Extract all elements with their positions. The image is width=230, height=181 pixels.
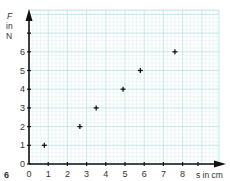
- figure-number: 6: [4, 170, 9, 180]
- x-tick-label: 2: [65, 169, 70, 179]
- y-axis-label: F in N: [6, 11, 13, 41]
- x-tick-label: 0: [26, 169, 31, 179]
- x-tick-label: 7: [161, 169, 166, 179]
- x-axis-arrow-icon: [214, 161, 226, 168]
- y-tick-label: 0: [20, 159, 25, 169]
- grid: [29, 10, 219, 164]
- y-axis-label-line: F: [7, 11, 13, 21]
- y-tick-label: 5: [20, 66, 25, 76]
- data-point-marker: [172, 49, 177, 54]
- y-tick-label: 4: [20, 84, 25, 94]
- y-tick-label: 6: [20, 47, 25, 57]
- data-point-marker: [77, 124, 82, 129]
- x-tick-label: 6: [142, 169, 147, 179]
- scatter-chart: 012345678 0123456 s in cm F in N 6: [0, 0, 230, 181]
- y-tick-label: 3: [20, 103, 25, 113]
- x-tick-label: 1: [46, 169, 51, 179]
- x-tick-label: 3: [84, 169, 89, 179]
- x-axis-label: s in cm: [196, 170, 223, 180]
- data-point-marker: [138, 68, 143, 73]
- data-point-marker: [42, 143, 47, 148]
- x-tick-label: 4: [103, 169, 108, 179]
- y-axis-label-line: N: [6, 31, 12, 41]
- x-tick-label: 5: [122, 169, 127, 179]
- y-tick-label: 2: [20, 122, 25, 132]
- y-axis-label-line: in: [6, 21, 13, 31]
- x-tick-label: 8: [180, 169, 185, 179]
- y-tick-label: 1: [20, 140, 25, 150]
